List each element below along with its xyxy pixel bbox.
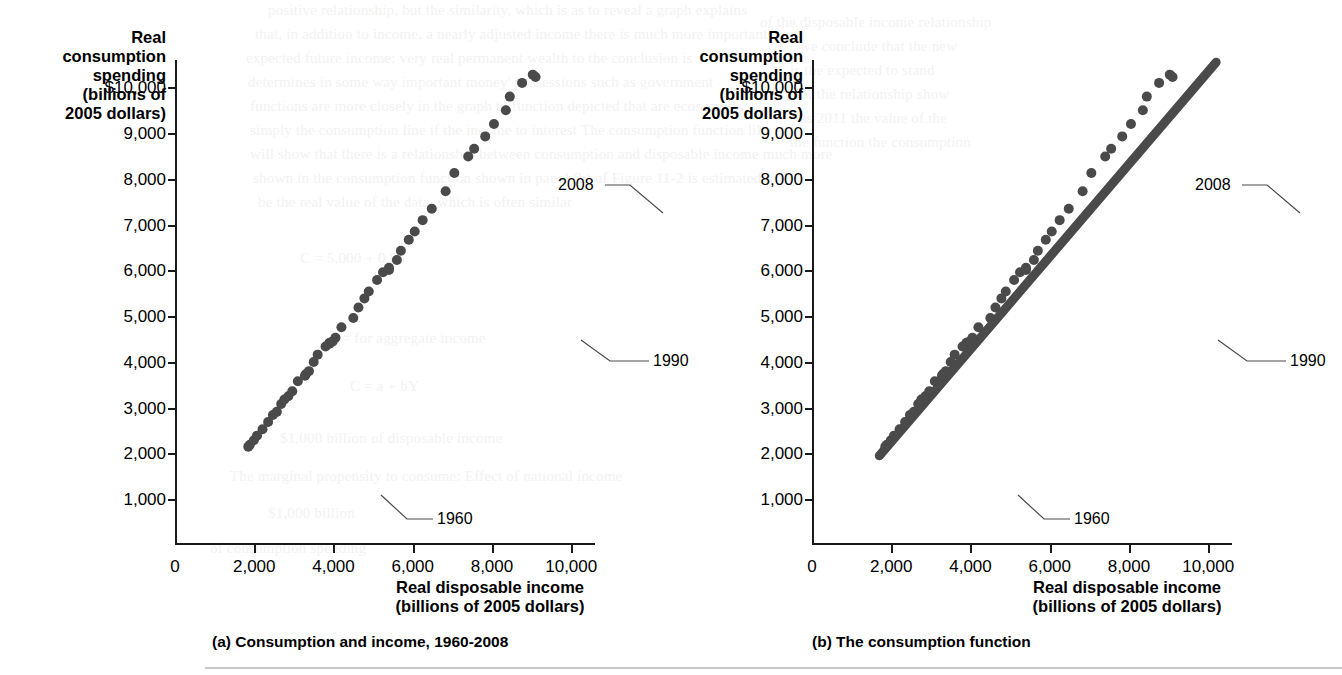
x-axis-title: Real disposable income(billions of 2005 … [967,578,1287,616]
x-axis-tick-label: 10,000 [545,557,597,577]
y-axis-tick-label: 1,000 [760,490,803,510]
panel-caption-b: (b) The consumption function [812,633,1031,651]
data-point [1055,215,1065,225]
annotation-1960-label: 1960 [437,510,473,528]
data-point [364,287,374,297]
x-axis-tick-label: 6,000 [391,557,434,577]
y-axis-tick-label: 4,000 [760,353,803,373]
data-point [924,386,934,396]
data-point [489,119,499,129]
y-axis-tick-label: 5,000 [760,307,803,327]
data-point [353,303,363,313]
x-axis-tick [254,545,256,553]
data-point [410,227,420,237]
y-axis-tick-label: 3,000 [123,399,166,419]
data-point [1033,246,1043,256]
x-axis-tick-label: 4,000 [949,557,992,577]
plot-area: 1,0002,0003,0004,0005,0006,0007,0008,000… [175,60,595,545]
x-axis-title: Real disposable income(billions of 2005 … [330,578,650,616]
data-point [1021,265,1031,275]
data-point [1142,92,1152,102]
data-point [950,350,960,360]
data-point [287,386,297,396]
data-point [1047,227,1057,237]
x-axis-tick-label: 8,000 [1108,557,1151,577]
y-axis-tick-label: 3,000 [760,399,803,419]
data-point [441,186,451,196]
data-point [501,105,511,115]
data-point [336,322,346,332]
data-point [469,144,479,154]
x-axis-tick-label: 10,000 [1182,557,1234,577]
x-axis-tick [1050,545,1052,553]
y-axis-tick-label: 1,000 [123,490,166,510]
y-axis-tick-label: 8,000 [760,170,803,190]
x-axis-tick [1129,545,1131,553]
data-point [304,366,314,376]
x-axis-tick-label: 0 [807,557,816,577]
data-point [449,168,459,178]
y-axis-title: Realconsumptionspending(billions of2005 … [637,28,803,123]
data-point [941,366,951,376]
y-axis-tick-label: 9,000 [760,124,803,144]
y-axis-tick-label: 8,000 [123,170,166,190]
y-axis-title: Realconsumptionspending(billions of2005 … [0,28,166,123]
data-layer [175,60,595,545]
data-point [1078,186,1088,196]
x-axis-tick-label: 0 [170,557,179,577]
x-axis-tick-label: 6,000 [1028,557,1071,577]
data-point [1168,72,1178,82]
annotation-1990-label: 1990 [1290,352,1326,370]
data-point [1138,105,1148,115]
annotation-1990-leader-line [1218,340,1286,361]
data-point [1086,168,1096,178]
plot-area: 1,0002,0003,0004,0005,0006,0007,0008,000… [812,60,1232,545]
data-point [1106,144,1116,154]
data-point [348,313,358,323]
data-point [1029,255,1039,265]
chart-panel-b: Realconsumptionspending(billions of2005 … [637,0,1297,675]
data-point [404,235,414,245]
data-point [531,72,541,82]
data-point [1041,235,1051,245]
data-point [427,204,437,214]
data-point [1064,204,1074,214]
x-axis-tick [970,545,972,553]
x-axis-tick [413,545,415,553]
data-point [517,78,527,88]
annotation-2008-label: 2008 [1195,176,1231,194]
y-axis-tick-label: 9,000 [123,124,166,144]
x-axis-tick-label: 2,000 [233,557,276,577]
y-axis-tick-label: 7,000 [123,216,166,236]
data-point [1117,131,1127,141]
data-point [384,265,394,275]
x-axis-tick [891,545,893,553]
x-axis-tick [333,545,335,553]
y-axis-tick-label: 6,000 [760,261,803,281]
y-axis-tick-label: 2,000 [760,444,803,464]
data-point [330,333,340,343]
y-axis-tick-label: 5,000 [123,307,166,327]
x-axis-tick-label: 4,000 [312,557,355,577]
bottom-divider-rule [205,667,1342,669]
y-axis-tick-label: 7,000 [760,216,803,236]
annotation-1960-label: 1960 [1074,510,1110,528]
y-axis-tick-label: 4,000 [123,353,166,373]
data-point [392,255,402,265]
x-axis-tick-label: 8,000 [471,557,514,577]
data-point [418,215,428,225]
y-axis-tick-label: 2,000 [123,444,166,464]
x-axis-tick [492,545,494,553]
data-point [1154,78,1164,88]
y-axis-tick-label: $10,000 [742,78,803,98]
data-point [1126,119,1136,129]
data-point [313,350,323,360]
annotation-1960-leader-line [1018,495,1070,519]
data-point [985,313,995,323]
data-point [1001,287,1011,297]
y-axis-tick-label: 6,000 [123,261,166,281]
data-point [396,246,406,256]
x-axis-tick-label: 2,000 [870,557,913,577]
annotation-1960-leader-line [381,495,433,519]
annotation-2008-label: 2008 [558,176,594,194]
